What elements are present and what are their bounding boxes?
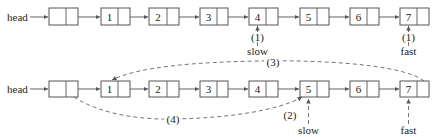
head-label: head — [7, 11, 28, 23]
node-3: 3 — [200, 81, 228, 97]
link-4-label: (4) — [167, 113, 180, 126]
node-5: 5 — [300, 81, 329, 97]
slow-step-label: (2) — [284, 109, 297, 122]
node-7: 7 — [400, 8, 429, 25]
svg-text:4: 4 — [255, 11, 261, 23]
svg-text:5: 5 — [306, 11, 312, 23]
node-6: 6 — [350, 81, 379, 97]
link-4-curve — [74, 97, 302, 119]
node-4: 4 — [249, 81, 278, 97]
node-6: 6 — [350, 8, 379, 25]
head-label: head — [7, 83, 28, 95]
slow-label: slow — [298, 124, 319, 136]
node-1: 1 — [101, 8, 130, 25]
slow-label: slow — [247, 45, 268, 57]
node-4: 4 — [249, 8, 278, 25]
node-2: 2 — [149, 8, 179, 25]
fast-label: fast — [401, 124, 417, 136]
svg-text:7: 7 — [406, 83, 412, 95]
svg-text:1: 1 — [107, 11, 113, 23]
svg-text:1: 1 — [107, 83, 113, 95]
svg-text:7: 7 — [406, 11, 412, 23]
node-7: 7 — [400, 81, 429, 97]
svg-text:3: 3 — [206, 83, 212, 95]
fast-label: fast — [401, 45, 417, 57]
svg-text:6: 6 — [356, 83, 362, 95]
link-3-label: (3) — [267, 56, 280, 69]
svg-text:6: 6 — [356, 11, 362, 23]
svg-text:4: 4 — [255, 83, 261, 95]
row-1: head 1 2 3 4 — [7, 8, 429, 57]
node-sentinel — [49, 8, 78, 25]
svg-text:2: 2 — [155, 83, 161, 95]
row-2: head 1 2 3 4 — [7, 56, 429, 136]
svg-text:3: 3 — [206, 11, 212, 23]
slow-step-label: (1) — [251, 31, 264, 44]
fast-step-label: (1) — [402, 31, 415, 44]
linked-list-diagram: head 1 2 3 4 — [0, 0, 434, 137]
node-5: 5 — [300, 8, 329, 25]
node-sentinel — [49, 81, 78, 97]
node-3: 3 — [200, 8, 228, 25]
node-1: 1 — [101, 81, 130, 97]
node-2: 2 — [149, 81, 179, 97]
svg-text:5: 5 — [306, 83, 312, 95]
svg-text:2: 2 — [155, 11, 161, 23]
